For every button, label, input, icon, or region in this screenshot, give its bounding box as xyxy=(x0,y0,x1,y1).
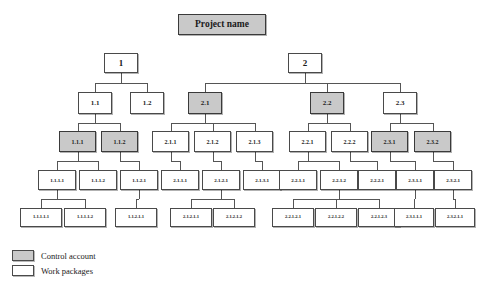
wbs-node-2-1-1-1[interactable]: 2.1.1.1 xyxy=(161,170,199,190)
connector-line xyxy=(298,161,299,170)
connector-line xyxy=(171,161,180,162)
connector-line xyxy=(390,123,391,131)
wbs-node-label: 1.2 xyxy=(143,100,152,107)
wbs-node-label: 2.1 xyxy=(201,100,210,107)
connector-line xyxy=(415,190,416,199)
connector-line xyxy=(57,161,98,162)
wbs-node-1-1-2-1[interactable]: 1.1.2.1 xyxy=(120,170,158,190)
wbs-node-label: 2.2.1.2.3 xyxy=(371,215,387,220)
wbs-node-label: 2.3.2.1 xyxy=(446,178,460,183)
wbs-node-2-1-2-1-1[interactable]: 2.1.2.1.1 xyxy=(170,208,212,227)
wbs-node-2-1-2-1-2[interactable]: 2.1.2.1.2 xyxy=(213,208,255,227)
connector-line xyxy=(85,199,86,208)
wbs-node-1[interactable]: 1 xyxy=(104,53,138,73)
wbs-node-2-3-1-1[interactable]: 2.3.1.1 xyxy=(396,170,434,190)
legend-item-work-packages: Work packages xyxy=(12,263,96,278)
connector-line xyxy=(136,199,137,208)
connector-line xyxy=(327,114,328,123)
wbs-node-2[interactable]: 2 xyxy=(288,53,322,73)
wbs-node-1-1-1-1-1[interactable]: 1.1.1.1.1 xyxy=(20,208,62,227)
wbs-diagram: Project name121.11.22.12.22.31.1.11.1.22… xyxy=(0,0,479,288)
connector-line xyxy=(308,123,309,131)
connector-line xyxy=(453,161,454,170)
connector-line xyxy=(255,123,256,131)
connector-line xyxy=(433,123,434,131)
connector-line xyxy=(350,152,351,161)
wbs-node-2-3-2[interactable]: 2.3.2 xyxy=(414,131,451,152)
connector-line xyxy=(147,83,148,92)
wbs-node-root[interactable]: Project name xyxy=(178,14,266,35)
wbs-node-2-1-1[interactable]: 2.1.1 xyxy=(152,131,189,152)
wbs-node-label: 2.2.1.2.1 xyxy=(285,215,301,220)
wbs-node-label: 2.2.2.1 xyxy=(370,178,384,183)
wbs-node-label: 2.2.2 xyxy=(344,139,356,145)
wbs-node-2-3[interactable]: 2.3 xyxy=(383,92,417,114)
legend-item-control-account: Control account xyxy=(12,248,96,263)
connector-line xyxy=(213,161,221,162)
wbs-node-2-2-1-1[interactable]: 2.2.1.1 xyxy=(279,170,317,190)
wbs-node-label: 1.1.1.1 xyxy=(50,178,64,183)
wbs-node-label: 2.1.2.1.2 xyxy=(226,215,242,220)
wbs-node-2-2-1-2[interactable]: 2.2.1.2 xyxy=(320,170,358,190)
wbs-node-2-2-1-2-2[interactable]: 2.2.1.2.2 xyxy=(315,208,357,227)
wbs-node-label: 1 xyxy=(119,59,124,68)
wbs-node-label: 2.3.2 xyxy=(427,139,439,145)
connector-line xyxy=(350,161,377,162)
connector-line xyxy=(41,199,85,200)
wbs-node-label: 2.2.1.2 xyxy=(332,178,346,183)
connector-line xyxy=(95,83,147,84)
connector-line xyxy=(390,123,433,124)
wbs-node-2-2-1-2-1[interactable]: 2.2.1.2.1 xyxy=(272,208,314,227)
wbs-node-label: 2.1.1 xyxy=(165,139,177,145)
connector-line xyxy=(453,190,454,199)
connector-line xyxy=(262,161,263,170)
wbs-node-1-1-1-1-2[interactable]: 1.1.1.1.2 xyxy=(64,208,106,227)
wbs-node-2-1-2-1[interactable]: 2.1.2.1 xyxy=(202,170,240,190)
wbs-node-1-1-1-2[interactable]: 1.1.1.2 xyxy=(79,170,117,190)
wbs-node-1-1-2-1-1[interactable]: 1.1.2.1.1 xyxy=(115,208,157,227)
legend-swatch-work-packages xyxy=(12,265,34,276)
wbs-node-2-3-1[interactable]: 2.3.1 xyxy=(371,131,408,152)
wbs-node-1-2[interactable]: 1.2 xyxy=(130,92,164,114)
connector-line xyxy=(191,199,192,208)
connector-line xyxy=(139,190,140,199)
wbs-node-2-2-2[interactable]: 2.2.2 xyxy=(331,131,368,152)
connector-line xyxy=(95,83,96,92)
wbs-node-label: 1.1 xyxy=(91,100,100,107)
wbs-node-label: 1.1.2 xyxy=(114,139,126,145)
connector-line xyxy=(213,152,214,161)
wbs-node-2-3-1-1-1[interactable]: 2.3.1.1.1 xyxy=(394,208,434,227)
connector-line xyxy=(390,161,415,162)
wbs-node-2-1-2[interactable]: 2.1.2 xyxy=(194,131,231,152)
wbs-node-label: 2.2 xyxy=(323,100,332,107)
wbs-node-2-2-2-1[interactable]: 2.2.2.1 xyxy=(358,170,396,190)
wbs-node-2-1-3-1[interactable]: 2.1.3.1 xyxy=(243,170,281,190)
wbs-node-2-1[interactable]: 2.1 xyxy=(188,92,222,114)
wbs-node-label: 2.1.1.1 xyxy=(173,178,187,183)
wbs-node-2-3-2-1-1[interactable]: 2.3.2.1.1 xyxy=(435,208,475,227)
wbs-node-2-2-1[interactable]: 2.2.1 xyxy=(289,131,326,152)
wbs-node-label: 2.1.2.1 xyxy=(214,178,228,183)
connector-line xyxy=(221,161,222,170)
wbs-node-2-1-3[interactable]: 2.1.3 xyxy=(236,131,273,152)
wbs-node-label: 2.1.2.1.1 xyxy=(183,215,199,220)
wbs-node-1-1-1-1[interactable]: 1.1.1.1 xyxy=(38,170,76,190)
wbs-node-1-1-2[interactable]: 1.1.2 xyxy=(101,131,138,152)
connector-line xyxy=(120,152,121,161)
wbs-node-label: 2.1.2 xyxy=(207,139,219,145)
wbs-node-label: 2.3 xyxy=(396,100,405,107)
wbs-node-1-1[interactable]: 1.1 xyxy=(78,92,112,114)
connector-line xyxy=(305,73,306,83)
connector-line xyxy=(213,123,214,131)
wbs-node-label: 2.3.2.1.1 xyxy=(447,215,463,220)
wbs-node-1-1-1[interactable]: 1.1.1 xyxy=(59,131,96,152)
wbs-node-2-3-2-1[interactable]: 2.3.2.1 xyxy=(434,170,472,190)
wbs-node-2-2[interactable]: 2.2 xyxy=(310,92,344,114)
connector-line xyxy=(379,199,380,208)
connector-line xyxy=(98,161,99,170)
connector-line xyxy=(41,199,42,208)
connector-line xyxy=(298,161,339,162)
connector-line xyxy=(191,199,234,200)
connector-line xyxy=(339,161,340,170)
connector-line xyxy=(433,152,434,161)
